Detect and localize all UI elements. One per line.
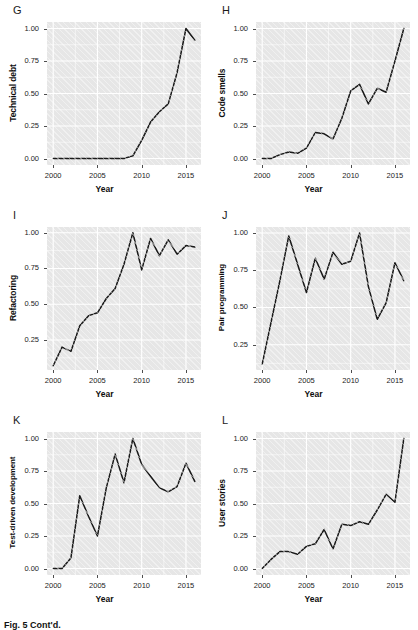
x-tick-label: 2010 <box>335 171 367 180</box>
x-tick-mark <box>351 575 352 578</box>
figure-caption: Fig. 5 Cont'd. <box>4 620 61 630</box>
y-tick-label: 1.00 <box>209 228 248 237</box>
plot-area <box>256 227 410 370</box>
y-tick-mark <box>253 270 256 271</box>
y-tick-mark <box>44 304 47 305</box>
y-tick-mark <box>253 126 256 127</box>
y-tick-label: 0.75 <box>209 56 248 65</box>
x-tick-mark <box>186 370 187 373</box>
chart-panel-h: HCode smellsYear0.000.250.500.751.002000… <box>209 0 418 205</box>
y-tick-mark <box>253 569 256 570</box>
x-tick-mark <box>351 165 352 168</box>
y-tick-label: 0.00 <box>209 154 248 163</box>
x-tick-mark <box>53 165 54 168</box>
x-tick-mark <box>142 370 143 373</box>
x-tick-label: 2005 <box>290 581 322 590</box>
x-tick-mark <box>142 575 143 578</box>
y-tick-label: 0.00 <box>209 564 248 573</box>
chart-panel-k: KTest-driven developmentYear0.000.250.50… <box>0 410 209 615</box>
y-tick-mark <box>44 340 47 341</box>
y-tick-mark <box>253 61 256 62</box>
y-tick-label: 1.00 <box>209 434 248 443</box>
plot-area <box>256 22 410 165</box>
x-tick-mark <box>97 165 98 168</box>
x-axis-label: Year <box>0 594 209 604</box>
y-tick-mark <box>253 159 256 160</box>
x-axis-label: Year <box>209 184 418 194</box>
y-tick-mark <box>253 504 256 505</box>
y-tick-mark <box>44 126 47 127</box>
y-tick-label: 0.25 <box>209 340 248 349</box>
y-tick-label: 0.25 <box>209 121 248 130</box>
x-tick-mark <box>53 575 54 578</box>
x-tick-label: 2015 <box>379 171 411 180</box>
plot-area <box>47 22 201 165</box>
y-tick-mark <box>253 536 256 537</box>
y-tick-mark <box>44 29 47 30</box>
x-tick-mark <box>395 575 396 578</box>
y-tick-mark <box>44 159 47 160</box>
x-tick-mark <box>262 165 263 168</box>
y-tick-mark <box>44 504 47 505</box>
y-tick-mark <box>253 471 256 472</box>
y-tick-label: 1.00 <box>0 24 39 33</box>
y-tick-mark <box>253 345 256 346</box>
y-tick-label: 0.25 <box>0 335 39 344</box>
x-tick-label: 2005 <box>81 171 113 180</box>
x-tick-label: 2000 <box>37 376 69 385</box>
panel-letter: K <box>13 414 21 426</box>
x-tick-mark <box>262 575 263 578</box>
y-tick-mark <box>44 439 47 440</box>
x-tick-label: 2010 <box>335 376 367 385</box>
panel-letter: H <box>222 4 230 16</box>
y-tick-label: 0.25 <box>0 121 39 130</box>
panel-letter: I <box>13 209 16 221</box>
x-tick-label: 2015 <box>379 581 411 590</box>
panel-letter: G <box>13 4 22 16</box>
y-tick-label: 0.50 <box>209 89 248 98</box>
y-tick-label: 0.75 <box>209 265 248 274</box>
y-tick-mark <box>44 94 47 95</box>
x-tick-label: 2005 <box>81 581 113 590</box>
x-tick-label: 2000 <box>37 171 69 180</box>
y-tick-mark <box>253 233 256 234</box>
x-tick-mark <box>97 370 98 373</box>
panel-letter: L <box>222 414 228 426</box>
y-tick-mark <box>44 471 47 472</box>
x-tick-mark <box>53 370 54 373</box>
x-tick-label: 2000 <box>246 171 278 180</box>
x-tick-label: 2010 <box>335 581 367 590</box>
y-tick-label: 1.00 <box>209 24 248 33</box>
x-tick-label: 2010 <box>126 171 158 180</box>
x-tick-mark <box>306 370 307 373</box>
y-tick-label: 0.50 <box>209 302 248 311</box>
x-tick-mark <box>395 370 396 373</box>
x-tick-label: 2015 <box>170 581 202 590</box>
y-tick-mark <box>44 536 47 537</box>
plot-area <box>256 432 410 575</box>
y-tick-mark <box>44 61 47 62</box>
y-tick-label: 0.00 <box>0 564 39 573</box>
x-tick-mark <box>142 165 143 168</box>
x-tick-mark <box>306 165 307 168</box>
x-tick-mark <box>262 370 263 373</box>
x-axis-label: Year <box>0 184 209 194</box>
x-axis-label: Year <box>0 389 209 399</box>
y-tick-label: 0.50 <box>209 499 248 508</box>
y-tick-label: 0.50 <box>0 499 39 508</box>
x-tick-label: 2015 <box>379 376 411 385</box>
x-axis-label: Year <box>209 594 418 604</box>
x-tick-label: 2000 <box>246 581 278 590</box>
x-tick-mark <box>186 575 187 578</box>
x-tick-mark <box>351 370 352 373</box>
y-tick-mark <box>44 268 47 269</box>
x-tick-label: 2000 <box>246 376 278 385</box>
y-tick-label: 0.50 <box>0 299 39 308</box>
x-tick-mark <box>306 575 307 578</box>
x-tick-label: 2015 <box>170 376 202 385</box>
y-tick-label: 0.25 <box>209 531 248 540</box>
y-tick-mark <box>44 569 47 570</box>
y-tick-mark <box>253 94 256 95</box>
y-tick-label: 0.25 <box>0 531 39 540</box>
y-tick-label: 0.75 <box>0 263 39 272</box>
